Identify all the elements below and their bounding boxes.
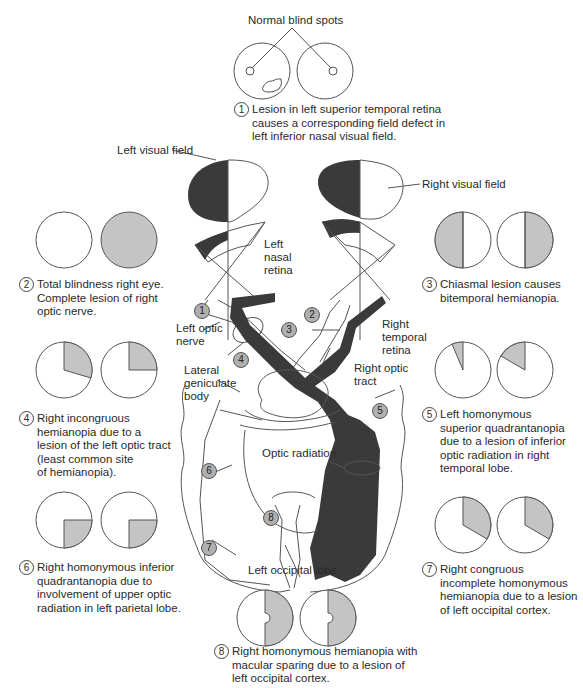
lesion-4-fields xyxy=(36,342,157,398)
lesion-2-caption: 2 Total blindness right eye. Complete le… xyxy=(37,278,164,319)
lesion-7-caption: 7 Right congruous incomplete homonymous … xyxy=(440,563,577,617)
badge-5: 5 xyxy=(372,403,388,419)
lesion-5-fields xyxy=(435,342,553,398)
optic-radiation-label: Optic radiation xyxy=(262,447,336,460)
lateral-geniculate-body-label: Lateral geniculate body xyxy=(184,364,236,403)
lesion-8-fields xyxy=(237,590,356,646)
lesion-1-fields xyxy=(234,28,353,99)
lesion-5-caption: 5 Left homonymous superior quadrantanopi… xyxy=(440,408,566,476)
normal-blind-spots-label: Normal blind spots xyxy=(248,14,343,27)
badge-1: 1 xyxy=(194,303,210,319)
right-temporal-retina-label: Right temporal retina xyxy=(382,318,427,357)
badge-6: 6 xyxy=(201,463,217,479)
left-optic-nerve-label: Left optic nerve xyxy=(176,322,223,348)
lesion-1-caption: 1 Lesion in left superior temporal retin… xyxy=(252,103,445,144)
right-optic-tract-label: Right optic tract xyxy=(354,362,408,388)
dark-pathway-fibers xyxy=(230,293,386,582)
left-visual-field-label: Left visual field xyxy=(117,144,193,157)
badge-4: 4 xyxy=(233,352,249,368)
right-visual-field-label: Right visual field xyxy=(422,178,506,191)
badge-7: 7 xyxy=(201,540,217,556)
left-visual-field-shape xyxy=(172,150,268,222)
badge-8: 8 xyxy=(263,510,279,526)
lesion-6-caption: 6 Right homonymous inferior quadrantanop… xyxy=(37,561,181,615)
badge-3: 3 xyxy=(281,322,297,338)
lesion-6-fields xyxy=(36,492,157,548)
lesion-3-fields xyxy=(435,212,553,268)
right-visual-field-shape xyxy=(318,160,420,219)
left-occipital-lobe-label: Left occipital lobe xyxy=(248,564,337,577)
lesion-3-caption: 3 Chiasmal lesion causes bitemporal hemi… xyxy=(440,278,561,305)
badge-2: 2 xyxy=(304,307,320,323)
lesion-7-fields xyxy=(435,497,553,553)
lesion-2-fields xyxy=(36,212,157,268)
left-nasal-retina-label: Left nasal retina xyxy=(264,238,293,277)
lesion-4-caption: 4 Right incongruous hemianopia due to a … xyxy=(37,412,171,480)
lesion-8-caption: 8 Right homonymous hemianopia with macul… xyxy=(232,645,417,686)
